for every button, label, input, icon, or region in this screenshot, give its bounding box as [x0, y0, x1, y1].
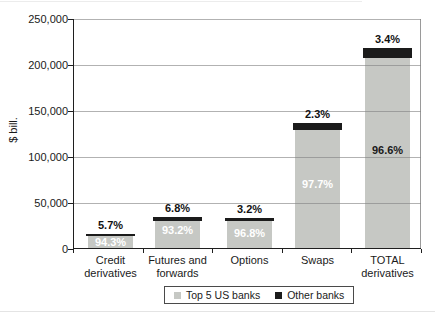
bottom-page-rule [0, 311, 435, 312]
other-banks-swatch-icon [275, 292, 282, 299]
category-label-line: TOTAL [346, 254, 430, 267]
legend-item-other: Other banks [275, 289, 344, 301]
y-tick-label: 0 [8, 243, 68, 255]
x-axis-line [73, 248, 421, 249]
legend-item-top5: Top 5 US banks [174, 289, 260, 301]
y-tick-label: 250,000 [8, 13, 68, 25]
x-tick [282, 249, 283, 253]
category-label-line: forwards [136, 267, 220, 280]
x-tick [212, 249, 213, 253]
y-tick-label: 150,000 [8, 105, 68, 117]
top-page-rule [0, 1, 362, 2]
other-banks-percent-label: 3.2% [218, 203, 282, 216]
other-banks-percent-label: 2.3% [286, 108, 350, 121]
y-tick-label: 50,000 [8, 197, 68, 209]
chart-figure: $ bill. 250,000200,000150,000100,00050,0… [0, 0, 435, 316]
y-tick-label: 200,000 [8, 59, 68, 71]
top5-banks-percent-label: 93.2% [146, 224, 210, 236]
gridline [73, 65, 421, 66]
bar-other-segment [293, 123, 342, 130]
other-banks-percent-label: 5.7% [79, 219, 143, 232]
gridline [73, 111, 421, 112]
bar-other-segment [363, 48, 412, 58]
top5-banks-swatch-icon [174, 292, 181, 299]
category-label: TOTALderivatives [346, 254, 430, 279]
top5-banks-percent-label: 96.6% [356, 144, 420, 156]
bar-other-segment [153, 217, 202, 221]
y-tick-label: 100,000 [8, 151, 68, 163]
legend-label-other: Other banks [287, 289, 344, 301]
gridline [73, 157, 421, 158]
x-tick [351, 249, 352, 253]
x-tick [421, 249, 422, 253]
category-label-line: derivatives [346, 267, 430, 280]
top5-banks-percent-label: 97.7% [286, 178, 350, 190]
other-banks-percent-label: 3.4% [356, 33, 420, 46]
other-banks-percent-label: 6.8% [146, 202, 210, 215]
legend-label-top5: Top 5 US banks [186, 289, 260, 301]
top5-banks-percent-label: 96.8% [218, 227, 282, 239]
bar-other-segment [225, 218, 274, 221]
gridline [73, 19, 421, 20]
x-tick [73, 249, 74, 253]
plot-area: 5.7%94.3%6.8%93.2%3.2%96.8%2.3%97.7%3.4%… [73, 19, 421, 249]
x-tick [143, 249, 144, 253]
plot-right-border [420, 19, 421, 249]
legend-box: Top 5 US banks Other banks [164, 286, 354, 304]
y-axis-line [73, 19, 74, 249]
top5-banks-percent-label: 94.3% [79, 236, 143, 248]
